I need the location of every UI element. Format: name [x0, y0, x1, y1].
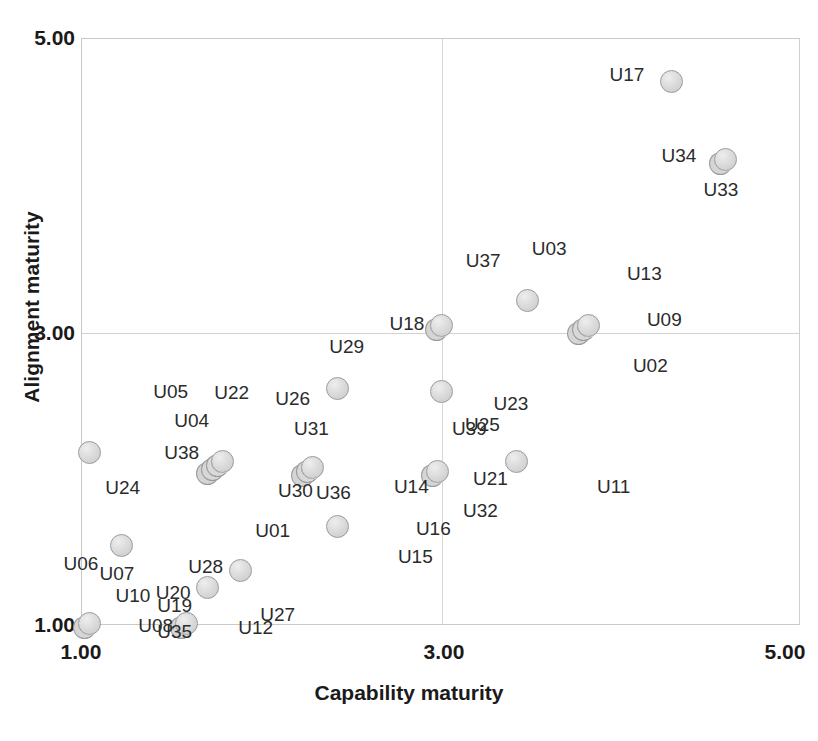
data-point-marker — [326, 377, 349, 400]
scatter-chart: 5.00 3.00 1.00 1.00 3.00 5.00 Capability… — [0, 0, 818, 741]
data-point-marker — [577, 314, 600, 337]
data-point-label: U38 — [164, 443, 199, 462]
data-point-label: U24 — [105, 478, 140, 497]
data-point-marker — [660, 70, 683, 93]
data-point-label: U11 — [597, 477, 630, 496]
data-point-marker — [326, 515, 349, 538]
y-axis-tick-5: 5.00 — [0, 26, 75, 50]
data-point-marker — [714, 148, 737, 171]
data-point-label: U25 — [465, 415, 500, 434]
data-point-marker — [110, 534, 133, 557]
data-point-marker — [229, 559, 252, 582]
data-point-label: U03 — [532, 239, 567, 258]
data-point-label: U06 — [64, 554, 99, 573]
data-point-label: U32 — [463, 501, 498, 520]
data-point-label: U09 — [647, 310, 682, 329]
data-point-label: U05 — [153, 382, 188, 401]
data-point-label: U28 — [188, 557, 223, 576]
data-point-label: U29 — [329, 337, 364, 356]
data-point-label: U17 — [610, 65, 645, 84]
data-point-marker — [430, 314, 453, 337]
data-point-marker — [78, 441, 101, 464]
x-axis-title: Capability maturity — [0, 681, 818, 705]
plot-area: U17U34U33U37U03U13U09U02U18U29U26U23U05U… — [81, 38, 800, 625]
data-point-label: U37 — [466, 251, 501, 270]
data-point-label: U18 — [390, 314, 425, 333]
data-point-label: U04 — [174, 411, 209, 430]
data-point-label: U21 — [473, 469, 508, 488]
data-point-label: U27 — [260, 605, 295, 624]
data-point-label: U31 — [294, 419, 329, 438]
data-point-label: U13 — [627, 264, 662, 283]
data-point-label: U26 — [275, 389, 310, 408]
data-point-marker — [301, 456, 324, 479]
y-axis-title: Alignment maturity — [20, 197, 44, 417]
y-axis-tick-1: 1.00 — [0, 613, 75, 637]
data-point-marker — [430, 380, 453, 403]
data-point-marker — [516, 289, 539, 312]
data-point-label: U23 — [494, 394, 529, 413]
data-point-label: U10 — [116, 586, 151, 605]
x-axis-tick-1: 1.00 — [41, 640, 121, 664]
x-axis-tick-3: 3.00 — [404, 640, 484, 664]
data-point-label: U16 — [416, 519, 451, 538]
data-point-marker — [426, 460, 449, 483]
data-point-label: U08 — [138, 616, 173, 635]
data-point-label: U14 — [394, 477, 429, 496]
data-point-label: U15 — [398, 547, 433, 566]
data-point-label: U33 — [704, 180, 739, 199]
data-point-label: U02 — [633, 356, 668, 375]
data-point-marker — [78, 612, 101, 635]
data-point-label: U30 — [278, 481, 313, 500]
data-point-label: U19 — [157, 596, 192, 615]
data-point-marker — [196, 576, 219, 599]
data-point-label: U36 — [316, 483, 351, 502]
data-point-label: U07 — [100, 564, 135, 583]
data-point-marker — [211, 450, 234, 473]
data-point-marker — [505, 450, 528, 473]
data-point-label: U22 — [214, 383, 249, 402]
data-point-label: U01 — [255, 521, 290, 540]
data-point-label: U34 — [662, 146, 697, 165]
x-axis-tick-5: 5.00 — [745, 640, 818, 664]
